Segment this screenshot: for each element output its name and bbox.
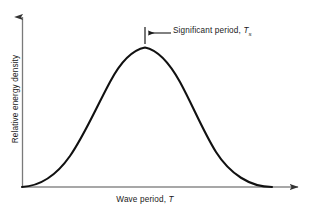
x-axis-label-symbol: T — [169, 195, 174, 204]
x-axis-label: Wave period, T — [0, 195, 290, 204]
x-axis-label-text: Wave period, — [116, 195, 166, 204]
figure-wave-energy-spectrum: Significant period, Ts Wave period, T Re… — [0, 0, 315, 211]
annotation-symbol-subscript: s — [249, 30, 252, 37]
spectrum-curve — [22, 48, 272, 188]
y-axis-label: Relative energy density — [11, 19, 20, 179]
plot-canvas — [0, 0, 315, 211]
y-axis-label-wrapper: Relative energy density — [11, 19, 25, 179]
significant-period-annotation-label: Significant period, Ts — [173, 26, 252, 37]
annotation-prefix-text: Significant period, — [173, 26, 241, 35]
